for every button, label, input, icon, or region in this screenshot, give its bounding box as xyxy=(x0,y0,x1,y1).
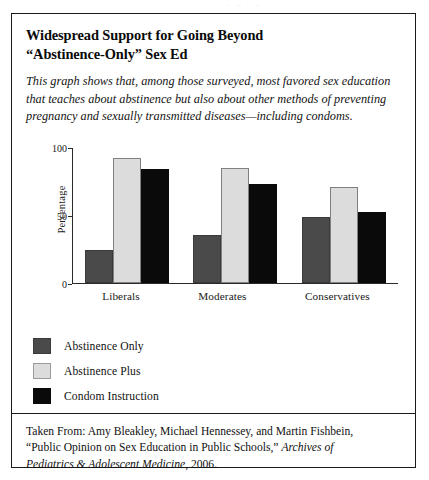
source-citation: Taken From: Amy Bleakley, Michael Hennes… xyxy=(26,424,403,473)
bar-liberals-abstinence-only xyxy=(85,250,113,282)
legend-swatch-abstinence-plus xyxy=(33,363,51,379)
legend-label-condom-instruction: Condom Instruction xyxy=(64,390,159,403)
x-axis-tick-labels: Liberals Moderates Conservatives xyxy=(73,290,399,302)
x-tick-label-moderates: Moderates xyxy=(198,290,246,302)
y-tick-mark-0 xyxy=(68,284,72,285)
y-tick-label-50: 50 xyxy=(57,210,67,221)
bar-moderates-abstinence-plus xyxy=(221,168,249,283)
bar-conservatives-condom-instruction xyxy=(358,212,386,282)
plot-area: 100 50 0 xyxy=(72,148,398,284)
bar-group-liberals xyxy=(85,148,169,283)
chart-legend: Abstinence Only Abstinence Plus Condom I… xyxy=(33,334,401,409)
legend-label-abstinence-only: Abstinence Only xyxy=(64,340,144,353)
bar-group-conservatives xyxy=(302,148,386,283)
citation-line-1: Taken From: Amy Bleakley, Michael Hennes… xyxy=(26,424,403,440)
bar-liberals-abstinence-plus xyxy=(113,158,141,282)
figure-description-line-2: that teaches about abstinence but also a… xyxy=(26,91,401,108)
legend-swatch-condom-instruction xyxy=(33,388,51,404)
bar-conservatives-abstinence-plus xyxy=(330,187,358,283)
source-divider xyxy=(12,413,415,414)
legend-swatch-abstinence-only xyxy=(33,338,51,354)
figure-description-line-1: This graph shows that, among those surve… xyxy=(26,73,401,90)
figure-title: Widespread Support for Going Beyond “Abs… xyxy=(26,26,401,64)
legend-item-abstinence-only: Abstinence Only xyxy=(33,334,401,359)
bar-group-moderates xyxy=(193,148,277,283)
bar-conservatives-abstinence-only xyxy=(302,217,330,283)
bar-chart: Percentage 100 50 0 xyxy=(26,140,403,320)
x-axis-line xyxy=(72,283,398,284)
y-tick-mark-50 xyxy=(68,216,72,217)
legend-item-condom-instruction: Condom Instruction xyxy=(33,384,401,409)
x-tick-label-liberals: Liberals xyxy=(102,290,139,302)
figure-inner: Widespread Support for Going Beyond “Abs… xyxy=(12,14,415,467)
figure-box: Widespread Support for Going Beyond “Abs… xyxy=(11,13,416,468)
x-tick-label-conservatives: Conservatives xyxy=(305,290,370,302)
y-tick-mark-100 xyxy=(68,148,72,149)
figure-description: This graph shows that, among those surve… xyxy=(26,73,401,125)
bar-moderates-condom-instruction xyxy=(249,184,277,283)
figure-title-line-1: Widespread Support for Going Beyond xyxy=(26,26,401,45)
citation-line-2: “Public Opinion on Sex Education in Publ… xyxy=(26,440,403,456)
bar-liberals-condom-instruction xyxy=(141,169,169,282)
legend-item-abstinence-plus: Abstinence Plus xyxy=(33,359,401,384)
bar-groups xyxy=(73,148,398,283)
y-tick-label-100: 100 xyxy=(52,142,67,153)
legend-label-abstinence-plus: Abstinence Plus xyxy=(64,365,141,378)
figure-description-line-3: pregnancy and sexually transmitted disea… xyxy=(26,108,401,125)
y-axis-title: Percentage xyxy=(56,164,67,254)
y-tick-label-0: 0 xyxy=(62,278,67,289)
page-edge-artifact: . . . . xyxy=(228,0,261,8)
citation-line-3: Pediatrics & Adolescent Medicine, 2006. xyxy=(26,457,403,473)
figure-title-line-2: “Abstinence-Only” Sex Ed xyxy=(26,45,401,64)
bar-moderates-abstinence-only xyxy=(193,235,221,282)
